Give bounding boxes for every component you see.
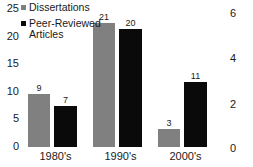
right-axis-tick-2: 2 bbox=[226, 99, 240, 110]
category-label-2000s: 2000's bbox=[158, 150, 213, 163]
bar-label-dissertations-1980s: 9 bbox=[36, 83, 41, 93]
left-axis-tick-10: 10 bbox=[0, 86, 19, 97]
grouped-bar-chart: 25 20 15 10 5 0 6 4 2 0 9 7 21 20 bbox=[0, 0, 253, 167]
legend-item-peer-reviewed-articles[interactable]: Peer-ReviewedArticles bbox=[21, 18, 113, 40]
right-value-axis: 6 4 2 0 bbox=[226, 0, 248, 167]
bar-peer-reviewed-articles-1980s[interactable]: 7 bbox=[54, 106, 77, 147]
left-axis-tick-20: 20 bbox=[0, 31, 19, 42]
right-axis-tick-4: 4 bbox=[226, 53, 240, 64]
bar-peer-reviewed-articles-2000s[interactable]: 11 bbox=[184, 82, 207, 147]
bar-label-peer-reviewed-articles-2000s: 11 bbox=[191, 71, 200, 81]
bar-dissertations-1980s[interactable]: 9 bbox=[28, 94, 50, 147]
left-axis-tick-0: 0 bbox=[0, 141, 19, 152]
legend-swatch-icon-peer-reviewed-articles bbox=[21, 21, 26, 26]
bar-label-peer-reviewed-articles-1990s: 20 bbox=[125, 18, 135, 28]
right-axis-tick-6: 6 bbox=[226, 8, 240, 19]
bar-dissertations-2000s[interactable]: 3 bbox=[158, 129, 180, 147]
left-axis-tick-5: 5 bbox=[0, 113, 19, 124]
left-value-axis: 25 20 15 10 5 0 bbox=[0, 0, 19, 167]
category-label-1980s: 1980's bbox=[28, 150, 83, 163]
left-axis-tick-15: 15 bbox=[0, 58, 19, 69]
category-label-1990s: 1990's bbox=[93, 150, 148, 163]
left-axis-tick-25: 25 bbox=[0, 3, 19, 14]
bar-label-dissertations-2000s: 3 bbox=[166, 118, 171, 128]
chart-legend: Dissertations Peer-ReviewedArticles bbox=[21, 2, 113, 45]
bar-group-2000s: 3 11 bbox=[158, 0, 213, 147]
legend-label-line-2: Articles bbox=[29, 28, 63, 40]
category-axis: 1980's 1990's 2000's bbox=[22, 150, 220, 167]
legend-label-peer-reviewed-articles: Peer-ReviewedArticles bbox=[29, 18, 101, 40]
right-axis-tick-0: 0 bbox=[226, 143, 240, 154]
bar-label-peer-reviewed-articles-1980s: 7 bbox=[63, 95, 68, 105]
bar-peer-reviewed-articles-1990s[interactable]: 20 bbox=[119, 29, 142, 147]
legend-label-dissertations: Dissertations bbox=[29, 2, 90, 13]
legend-item-dissertations[interactable]: Dissertations bbox=[21, 2, 113, 13]
legend-swatch-icon-dissertations bbox=[21, 5, 26, 10]
